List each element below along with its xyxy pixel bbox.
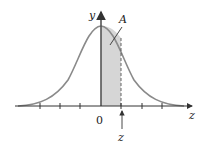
shaded-area-A bbox=[101, 26, 121, 106]
z-marker-label: z bbox=[117, 131, 124, 144]
origin-label: 0 bbox=[96, 114, 103, 127]
normal-distribution-diagram: y A z 0 z bbox=[0, 0, 207, 147]
y-axis-label: y bbox=[88, 9, 96, 22]
area-label: A bbox=[118, 13, 127, 26]
x-axis-label: z bbox=[188, 109, 195, 122]
